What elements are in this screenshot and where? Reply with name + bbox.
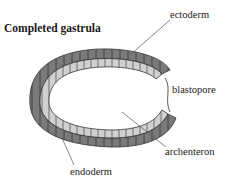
- archenteron-label: archenteron: [165, 146, 215, 157]
- endoderm-layer: [40, 59, 168, 138]
- endoderm-label: endoderm: [70, 166, 112, 177]
- ectoderm-label: ectoderm: [170, 9, 209, 20]
- blastopore-label: blastopore: [172, 84, 216, 95]
